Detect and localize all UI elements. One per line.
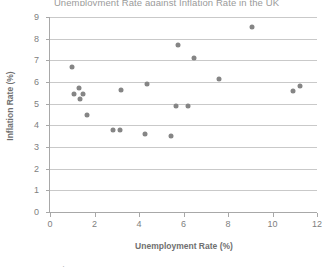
y-tick-1: [46, 190, 50, 191]
y-tick-label-0: 0: [34, 207, 39, 217]
gridline-y-9: [50, 17, 317, 18]
x-tick-2: [95, 213, 96, 217]
y-tick-label-9: 9: [34, 12, 39, 22]
x-tick-4: [139, 213, 140, 217]
x-tick-8: [228, 213, 229, 217]
y-tick-8: [46, 39, 50, 40]
gridline-y-1: [50, 190, 317, 191]
gridline-y-2: [50, 169, 317, 170]
x-tick-12: [317, 213, 318, 217]
data-point: [173, 104, 178, 109]
data-point: [80, 91, 85, 96]
x-tick-label-12: 12: [312, 219, 322, 229]
data-point: [169, 133, 174, 138]
x-tick-label-6: 6: [181, 219, 186, 229]
data-point: [118, 128, 123, 133]
y-tick-4: [46, 125, 50, 126]
scatter-chart: Unemployment Rate against Inflation Rate…: [0, 0, 333, 267]
data-point: [72, 91, 77, 96]
data-point: [185, 103, 190, 108]
data-point: [142, 132, 147, 137]
data-point: [119, 87, 124, 92]
x-tick-label-10: 10: [267, 219, 277, 229]
data-point: [290, 88, 295, 93]
y-tick-6: [46, 82, 50, 83]
data-point: [191, 56, 196, 61]
data-point: [111, 128, 116, 133]
y-tick-label-5: 5: [34, 99, 39, 109]
gridline-y-3: [50, 147, 317, 148]
y-tick-3: [46, 147, 50, 148]
chart-title-text: Unemployment Rate against Inflation Rate…: [54, 0, 279, 6]
y-tick-label-6: 6: [34, 77, 39, 87]
x-axis-title: Unemployment Rate (%): [50, 241, 318, 251]
y-axis-title: Inflation Rate (%): [2, 0, 18, 212]
x-tick-0: [50, 213, 51, 217]
y-tick-label-2: 2: [34, 164, 39, 174]
y-tick-label-4: 4: [34, 120, 39, 130]
data-point: [250, 25, 255, 30]
data-point: [84, 112, 89, 117]
y-tick-9: [46, 17, 50, 18]
data-point: [70, 64, 75, 69]
gridline-y-6: [50, 82, 317, 83]
y-tick-label-1: 1: [34, 185, 39, 195]
y-tick-label-3: 3: [34, 142, 39, 152]
x-tick-label-2: 2: [92, 219, 97, 229]
y-tick-label-8: 8: [34, 34, 39, 44]
y-tick-7: [46, 60, 50, 61]
x-tick-label-8: 8: [225, 219, 230, 229]
x-tick-label-0: 0: [47, 219, 52, 229]
y-tick-2: [46, 169, 50, 170]
y-axis-title-text: Inflation Rate (%): [5, 71, 15, 140]
chart-title-clipped: Unemployment Rate against Inflation Rate…: [0, 0, 333, 6]
x-tick-10: [273, 213, 274, 217]
plot-area: 0123456789 024681012: [50, 17, 317, 212]
data-point: [298, 83, 303, 88]
data-point: [217, 77, 222, 82]
data-point: [78, 97, 83, 102]
y-axis-line: [49, 17, 50, 212]
gridline-y-8: [50, 39, 317, 40]
gridline-y-5: [50, 104, 317, 105]
data-point: [144, 82, 149, 87]
chart-footer-clipped: Source: ONS data: [0, 259, 333, 267]
data-point: [76, 86, 81, 91]
y-tick-label-7: 7: [34, 55, 39, 65]
gridline-y-4: [50, 125, 317, 126]
x-tick-6: [184, 213, 185, 217]
gridline-y-7: [50, 60, 317, 61]
data-point: [175, 43, 180, 48]
x-tick-label-4: 4: [136, 219, 141, 229]
y-tick-5: [46, 104, 50, 105]
